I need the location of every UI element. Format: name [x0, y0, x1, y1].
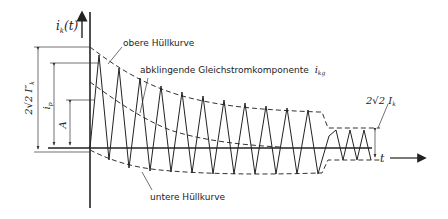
label-steady-state: 2√2 Ik: [365, 95, 396, 107]
leader-lower: [142, 172, 152, 190]
label-dc-component: abklingende Gleichstromkomponente ikg: [140, 64, 325, 77]
label-dc-initial: A: [57, 121, 68, 129]
y-axis-label: ik(t): [56, 19, 79, 35]
leader-upper: [108, 47, 122, 64]
x-axis-label: t: [380, 152, 385, 165]
leader-dc: [140, 78, 148, 113]
label-lower-envelope: untere Hüllkurve: [150, 192, 226, 202]
label-peak-initial: 2√2 I″k: [23, 81, 35, 116]
label-peak-current: ip: [41, 102, 54, 109]
upper-envelope: [90, 47, 380, 128]
leader-steady: [378, 104, 388, 128]
short-circuit-diagram: ik(t) t 2√2 I″k ip A 2√2 Ik obere Hüllku…: [0, 0, 448, 219]
label-upper-envelope: obere Hüllkurve: [123, 38, 195, 48]
